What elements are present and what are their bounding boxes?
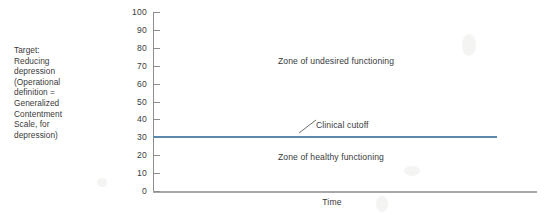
y-tick-label: 90 — [137, 25, 147, 35]
x-axis-line — [153, 191, 537, 193]
y-tick-label: 80 — [137, 43, 147, 53]
y-tick-label: 100 — [132, 7, 147, 17]
y-tick-label: 30 — [137, 132, 147, 142]
chart-plot-area: 100 90 80 70 60 50 40 30 — [153, 12, 537, 191]
y-tick-label: 50 — [137, 97, 147, 107]
figure-canvas: Target: Reducing depression (Operational… — [0, 0, 551, 215]
y-tick-label: 20 — [137, 150, 147, 160]
y-tick-label: 70 — [137, 61, 147, 71]
clinical-cutoff-label: Clinical cutoff — [316, 120, 368, 130]
clinical-cutoff-line — [153, 136, 497, 138]
cutoff-leader-line — [299, 119, 317, 133]
x-axis-label-text: Time — [322, 197, 342, 207]
y-tick-label: 60 — [137, 79, 147, 89]
target-caption: Target: Reducing depression (Operational… — [14, 45, 110, 140]
y-tick-label: 0 — [142, 186, 147, 196]
y-tick-label: 40 — [137, 114, 147, 124]
scan-artifact — [97, 178, 107, 187]
zone-healthy-label: Zone of healthy functioning — [278, 152, 384, 162]
y-tick-label: 10 — [137, 168, 147, 178]
x-axis-label: Time — [153, 197, 537, 207]
zone-undesired-label: Zone of undesired functioning — [278, 56, 394, 66]
